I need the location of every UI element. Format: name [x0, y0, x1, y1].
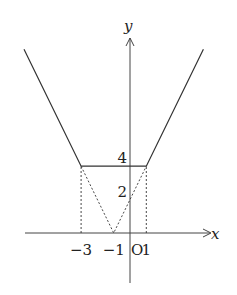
function-graph: x y O −3−1142 [0, 0, 237, 295]
x-tick-label-0: −3 [70, 241, 92, 259]
series-line-0 [24, 49, 203, 166]
y-tick-label-1: 2 [117, 183, 127, 201]
series-line-1 [81, 166, 146, 233]
y-tick-label-0: 4 [117, 149, 127, 167]
y-axis-label: y [123, 17, 133, 35]
x-axis-label: x [211, 225, 220, 243]
x-tick-label-1: −1 [103, 241, 125, 259]
x-tick-label-2: 1 [142, 241, 152, 259]
